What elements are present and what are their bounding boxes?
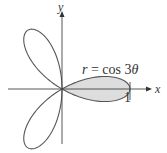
equation-theta: θ [132,62,139,77]
x-axis-label: x [154,82,161,96]
y-axis-label: y [57,0,64,14]
polar-rose-figure: x y 1 r = cos 3θ [0,0,167,153]
x-axis-arrow-icon [146,87,152,92]
equation-label: r = cos 3θ [82,62,139,77]
lower-left-petal [24,89,62,149]
upper-left-petal [24,29,62,89]
tick-label-1: 1 [124,90,131,105]
polar-plot: x y 1 r = cos 3θ [0,0,167,153]
equation-rest: = cos 3 [87,62,131,77]
